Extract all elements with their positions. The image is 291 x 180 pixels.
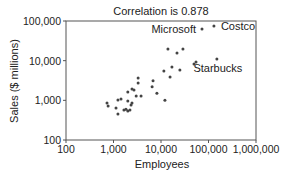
data-point xyxy=(181,47,184,50)
data-point xyxy=(137,77,140,80)
data-point xyxy=(116,113,119,116)
data-point xyxy=(137,81,140,84)
data-point xyxy=(130,104,133,107)
chart-title: Correlation is 0.878 xyxy=(113,5,208,17)
data-point xyxy=(151,85,154,88)
data-point xyxy=(116,98,119,101)
y-tick-label: 100 xyxy=(43,134,61,146)
data-point xyxy=(126,100,129,103)
data-point xyxy=(162,69,165,72)
plot-frame xyxy=(66,21,256,140)
data-point xyxy=(155,92,158,95)
chart-canvas: Correlation is 0.878 Sales ($ millions) … xyxy=(0,0,291,180)
point-annotations: MicrosoftCostcoStarbucks xyxy=(151,20,255,74)
annotation-costco: Costco xyxy=(221,20,255,32)
point-starbucks xyxy=(215,58,218,61)
data-point xyxy=(152,79,155,82)
y-tick-label: 1,000 xyxy=(35,94,61,106)
data-point xyxy=(132,89,135,92)
y-tick-label: 10,000 xyxy=(29,55,61,67)
y-axis-label: Sales ($ millions) xyxy=(8,39,20,123)
data-point xyxy=(135,94,138,97)
data-point xyxy=(175,52,178,55)
x-tick-label: 1,000 xyxy=(100,143,126,155)
data-point xyxy=(178,69,181,72)
x-tick-label: 1,000,000 xyxy=(233,143,280,155)
data-point xyxy=(115,107,118,110)
point-microsoft xyxy=(201,27,204,30)
annotation-starbucks: Starbucks xyxy=(193,62,242,74)
data-point xyxy=(107,104,110,107)
data-point xyxy=(120,98,123,101)
x-axis-label: Employees xyxy=(135,158,190,170)
plot-axes xyxy=(66,21,256,140)
scatter-chart: Correlation is 0.878 Sales ($ millions) … xyxy=(0,0,291,180)
axis-ticks: 1001,00010,000100,0001,000,0001001,00010… xyxy=(23,15,279,155)
x-tick-label: 10,000 xyxy=(145,143,177,155)
data-point xyxy=(166,47,169,50)
data-point xyxy=(169,75,172,78)
x-tick-label: 100,000 xyxy=(190,143,228,155)
data-point xyxy=(163,99,166,102)
y-tick-label: 100,000 xyxy=(23,15,61,27)
annotation-microsoft: Microsoft xyxy=(151,23,196,35)
data-point xyxy=(106,101,109,104)
data-point xyxy=(140,94,143,97)
point-costco xyxy=(212,24,215,27)
data-point xyxy=(126,91,129,94)
data-point xyxy=(128,109,131,112)
data-point xyxy=(170,66,173,69)
